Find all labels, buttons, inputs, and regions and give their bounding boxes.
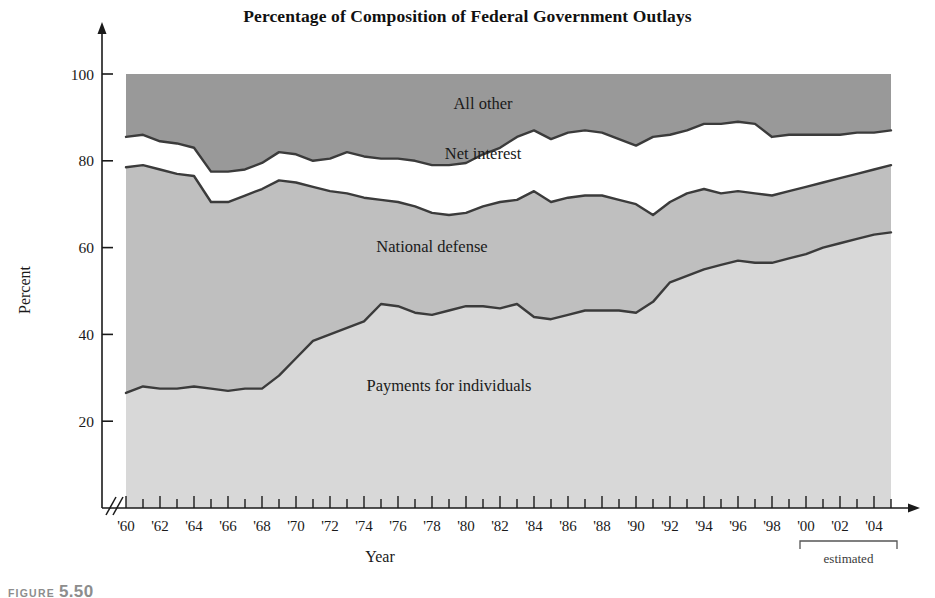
x-tick-label: '78 — [423, 518, 441, 534]
x-tick-label: '74 — [355, 518, 373, 534]
figure-caption: FIGURE5.50 — [8, 582, 94, 598]
x-tick-label: '90 — [627, 518, 645, 534]
x-tick-label: '68 — [253, 518, 271, 534]
x-tick-label: '80 — [457, 518, 475, 534]
y-tick-label: 60 — [79, 239, 95, 256]
x-tick-label: '82 — [491, 518, 509, 534]
x-tick-label: '84 — [525, 518, 543, 534]
axis-break-icon — [106, 497, 123, 515]
figure-container: Percentage of Composition of Federal Gov… — [0, 0, 935, 598]
x-tick-label: '94 — [695, 518, 713, 534]
x-tick-label: '00 — [797, 518, 815, 534]
x-tick-label: '92 — [661, 518, 679, 534]
x-tick-label: '66 — [219, 518, 237, 534]
x-axis-title: Year — [365, 548, 395, 565]
estimated-annotation: estimated — [800, 541, 897, 566]
x-tick-label: '70 — [287, 518, 305, 534]
x-tick-label: '62 — [151, 518, 169, 534]
band-label-national-defense: National defense — [376, 237, 487, 256]
x-tick-label: '96 — [729, 518, 747, 534]
x-tick-label: '60 — [117, 518, 135, 534]
estimated-bracket — [800, 541, 897, 549]
stacked-area-chart: All otherNet interestNational defensePay… — [0, 0, 935, 598]
band-label-all-other: All other — [453, 94, 513, 113]
x-tick-label: '72 — [321, 518, 339, 534]
x-tick-label: '88 — [593, 518, 611, 534]
x-tick-label: '64 — [185, 518, 203, 534]
figure-caption-number: 5.50 — [59, 582, 94, 598]
x-tick-label: '02 — [831, 518, 849, 534]
x-tick-label: '86 — [559, 518, 577, 534]
band-label-payments-for-individuals: Payments for individuals — [367, 376, 532, 395]
x-tick-label: '76 — [389, 518, 407, 534]
y-tick-label: 100 — [71, 66, 95, 83]
figure-caption-word: FIGURE — [8, 587, 55, 598]
y-axis-ticks: 20406080100 — [71, 66, 113, 430]
band-label-net-interest: Net interest — [445, 144, 522, 163]
x-tick-label: '98 — [763, 518, 781, 534]
y-axis-title: Percent — [16, 265, 33, 314]
y-tick-label: 80 — [79, 152, 95, 169]
y-axis: 20406080100 Percent — [16, 22, 113, 508]
estimated-label: estimated — [824, 551, 874, 566]
y-tick-label: 20 — [79, 413, 95, 430]
y-tick-label: 40 — [79, 326, 95, 343]
x-tick-label: '04 — [865, 518, 883, 534]
chart-bands — [126, 74, 891, 508]
